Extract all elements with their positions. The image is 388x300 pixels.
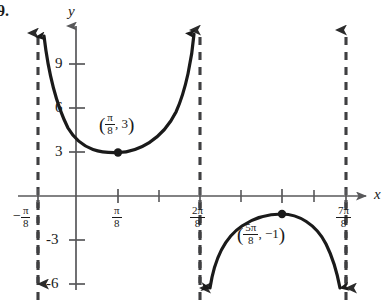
coord-y-value: −1 bbox=[265, 226, 279, 241]
fraction-numerator: 5π bbox=[243, 222, 258, 235]
y-tick-label-neg6: -6 bbox=[46, 276, 59, 291]
y-tick-label-neg3: -3 bbox=[46, 232, 59, 247]
fraction-denominator: 8 bbox=[336, 218, 351, 230]
x-axis-label: x bbox=[374, 187, 381, 202]
x-tick-label-pi-over-8: π 8 bbox=[112, 205, 122, 229]
y-axis-label: y bbox=[68, 4, 75, 19]
axes-group bbox=[18, 26, 366, 290]
problem-number: 9. bbox=[0, 3, 9, 19]
lower-vertex-point bbox=[278, 210, 286, 218]
upper-vertex-annotation: ( π 8 , 3) bbox=[99, 112, 134, 136]
fraction-denominator: 8 bbox=[21, 218, 31, 230]
figure-container: 9. y x 9 6 3 -3 -6 − π 8 π 8 2π 8 7π 8 (… bbox=[0, 0, 388, 300]
x-tick-label-2pi-over-8: 2π 8 bbox=[190, 205, 205, 229]
fraction-denominator: 8 bbox=[243, 235, 258, 247]
x-tick-label-neg-pi-over-8: − π 8 bbox=[13, 205, 30, 229]
asymptote-group bbox=[38, 30, 346, 300]
fraction-denominator: 8 bbox=[105, 125, 115, 137]
y-tick-label-3: 3 bbox=[55, 144, 63, 159]
fraction-numerator: 2π bbox=[190, 205, 205, 218]
y-tick-label-6: 6 bbox=[55, 100, 63, 115]
fraction-denominator: 8 bbox=[190, 218, 205, 230]
lower-vertex-annotation: ( 5π 8 , −1) bbox=[237, 222, 285, 246]
upper-vertex-point bbox=[114, 148, 122, 156]
fraction-numerator: π bbox=[21, 205, 31, 218]
close-paren: ) bbox=[128, 114, 134, 135]
fraction-numerator: π bbox=[112, 205, 122, 218]
y-tick-marks bbox=[69, 64, 85, 284]
fraction-numerator: 7π bbox=[336, 205, 351, 218]
close-paren: ) bbox=[279, 224, 285, 245]
fraction-denominator: 8 bbox=[112, 218, 122, 230]
y-tick-label-9: 9 bbox=[55, 56, 63, 71]
fraction-numerator: π bbox=[105, 112, 115, 125]
minus-sign: − bbox=[13, 208, 21, 223]
x-tick-label-7pi-over-8: 7π 8 bbox=[336, 205, 351, 229]
